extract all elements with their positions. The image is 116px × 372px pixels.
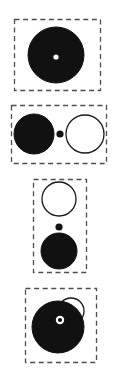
panel-1	[15, 20, 101, 91]
center-dot-white	[53, 54, 58, 59]
diagram-canvas	[0, 0, 116, 372]
panel-3	[34, 180, 87, 273]
open-circle-right	[66, 115, 104, 153]
filled-circle-left	[14, 114, 54, 154]
panel-group	[12, 20, 107, 363]
panel-2	[12, 106, 107, 164]
center-dot-black	[56, 130, 63, 137]
center-dot-black	[55, 223, 62, 230]
open-circle-top	[42, 182, 76, 216]
panel-4	[26, 289, 97, 363]
filled-circle-bottom	[41, 233, 77, 269]
filled-circle-large	[32, 301, 84, 353]
diagram-svg	[0, 0, 116, 372]
